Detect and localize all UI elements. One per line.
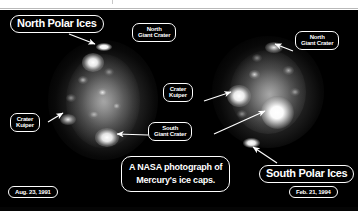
right-cap-knot-a — [249, 70, 260, 79]
right-cap-knot-b — [283, 66, 294, 75]
right-cap-knot-d — [237, 110, 247, 118]
left-cap-core — [66, 54, 140, 148]
arrow-north-polar-ices — [69, 34, 95, 44]
label-south-giant-crater-line2: Giant Crater — [154, 131, 186, 137]
label-north-giant-crater-center[interactable]: North Giant Crater — [132, 23, 176, 42]
left-cap-halo — [48, 40, 158, 160]
mercury-ice-caps-photo: North Polar Ices North Giant Crater Nort… — [0, 10, 358, 211]
arrow-south-giant-crater-left — [117, 134, 148, 135]
label-south-polar-ices-text: South Polar Ices — [266, 168, 347, 180]
left-cap-knot-b — [78, 76, 88, 84]
right-cap-halo — [212, 36, 324, 148]
scanned-page: North Polar Ices North Giant Crater Nort… — [0, 0, 358, 217]
photo-caption-line1: A NASA photograph of — [129, 161, 222, 174]
left-cap-knot-a — [97, 88, 108, 97]
label-north-polar-ices[interactable]: North Polar Ices — [10, 15, 104, 33]
date-badge-right: Feb. 21, 1994 — [289, 186, 338, 198]
photo-bottom-edge — [0, 207, 358, 211]
photo-caption: A NASA photograph of Mercury's ice caps. — [121, 156, 230, 192]
date-badge-right-text: Feb. 21, 1994 — [296, 189, 331, 195]
arrow-south-giant-crater-right — [214, 111, 265, 134]
photo-caption-line2: Mercury's ice caps. — [136, 174, 215, 187]
left-cap-knot-d — [88, 110, 100, 119]
arrow-north-giant-crater-right — [275, 44, 293, 51]
date-badge-left: Aug. 23, 1991 — [8, 186, 58, 198]
right-cap-core — [230, 50, 306, 134]
page-strip-tick — [112, 0, 113, 4]
feature-crater-kuiper-right — [227, 85, 251, 107]
arrow-crater-kuiper-left — [48, 113, 63, 122]
label-north-giant-crater-right-line2: Giant Crater — [301, 40, 333, 46]
feature-crater-kuiper-left — [60, 114, 76, 125]
label-crater-kuiper-left[interactable]: Crater Kuiper — [10, 113, 40, 132]
label-north-giant-crater-right[interactable]: North Giant Crater — [295, 31, 339, 50]
right-cap-knot-e — [252, 54, 262, 62]
right-cap-knot-c — [290, 88, 300, 96]
label-north-giant-crater-center-line2: Giant Crater — [138, 32, 170, 38]
date-badge-left-text: Aug. 23, 1991 — [15, 189, 51, 195]
feature-south-giant-crater-right — [261, 96, 294, 129]
feature-north-giant-crater-left — [82, 53, 104, 72]
label-north-polar-ices-text: North Polar Ices — [17, 18, 97, 30]
label-crater-kuiper-center[interactable]: Crater Kuiper — [163, 83, 193, 102]
page-top-strip — [0, 0, 358, 9]
arrow-south-polar-ices — [253, 147, 277, 163]
feature-north-giant-crater-right — [265, 42, 283, 53]
feature-south-polar-ices-right — [243, 138, 260, 148]
feature-north-polar-ices-left — [96, 43, 112, 51]
label-south-giant-crater[interactable]: South Giant Crater — [148, 122, 192, 141]
left-cap-knot-f — [104, 68, 114, 76]
label-crater-kuiper-center-line2: Kuiper — [169, 92, 187, 98]
arrow-crater-kuiper-right — [204, 92, 231, 101]
label-south-polar-ices[interactable]: South Polar Ices — [259, 165, 354, 183]
feature-south-giant-crater-left — [95, 128, 119, 147]
left-cap-knot-c — [112, 102, 121, 110]
label-crater-kuiper-left-line2: Kuiper — [16, 122, 34, 128]
left-cap-knot-e — [66, 94, 76, 102]
